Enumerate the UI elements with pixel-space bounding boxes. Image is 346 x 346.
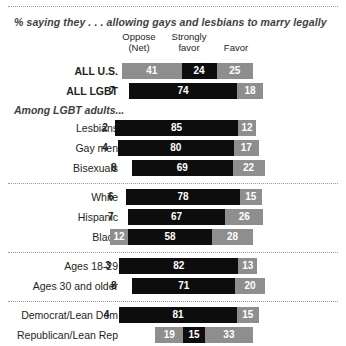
segment-oppose-value: 7 xyxy=(108,209,114,225)
segment-oppose-value: 4 xyxy=(104,307,110,323)
segment-strongly-favor: 71 xyxy=(132,278,235,294)
segment-favor: 22 xyxy=(233,160,265,176)
bar-row: Republican/Lean Rep191533 xyxy=(0,326,346,344)
stacked-bar: 28512 xyxy=(112,120,256,136)
stacked-bar: 125828 xyxy=(110,229,253,245)
row-label: Bisexuals xyxy=(0,159,118,177)
row-label: Ages 30 and older xyxy=(0,277,118,295)
segment-strongly-favor: 24 xyxy=(182,63,217,79)
bar-row: Ages 18-2938213 xyxy=(0,257,346,275)
segment-favor: 33 xyxy=(205,327,253,343)
chart-title: % saying they . . . allowing gays and le… xyxy=(14,16,336,28)
segment-favor: 13 xyxy=(238,258,257,274)
bar-row: Black125828 xyxy=(0,228,346,246)
row-label: Lesbians xyxy=(0,119,118,137)
bar-row: Lesbians28512 xyxy=(0,119,346,137)
bar-row: Hispanic76726 xyxy=(0,208,346,226)
bar-rows: ALL U.S.412425ALL LGBT77418Among LGBT ad… xyxy=(0,62,346,346)
row-label: Hispanic xyxy=(0,208,118,226)
divider-line xyxy=(8,301,338,302)
stacked-bar: 87120 xyxy=(121,278,265,294)
header-oppose: Oppose (Net) xyxy=(116,31,162,53)
stacked-bar: 77418 xyxy=(119,83,263,99)
stacked-bar: 86922 xyxy=(121,160,265,176)
stacked-bar: 412425 xyxy=(122,63,253,79)
segment-favor: 12 xyxy=(238,120,255,136)
header-strongly-line1: Strongly xyxy=(164,31,214,42)
bar-row: Bisexuals86922 xyxy=(0,159,346,177)
segment-oppose: 8 xyxy=(121,278,133,294)
header-oppose-line1: Oppose xyxy=(116,31,162,42)
section-divider xyxy=(0,179,346,188)
stacked-bar: 76726 xyxy=(118,209,263,225)
row-label: Gay men xyxy=(0,139,118,157)
header-oppose-line2: (Net) xyxy=(116,42,162,53)
row-label: Black xyxy=(0,228,118,246)
bar-row: ALL U.S.412425 xyxy=(0,62,346,80)
segment-favor: 15 xyxy=(237,307,259,323)
bar-row: Gay men48017 xyxy=(0,139,346,157)
segment-oppose-value: 4 xyxy=(102,140,108,156)
section-note-lgbt-adults: Among LGBT adults... xyxy=(0,102,346,119)
segment-oppose: 6 xyxy=(118,189,127,205)
stacked-bar: 67815 xyxy=(118,189,262,205)
segment-oppose-value: 8 xyxy=(111,278,117,294)
segment-oppose: 41 xyxy=(122,63,182,79)
segment-favor: 18 xyxy=(237,83,263,99)
segment-strongly-favor: 78 xyxy=(126,189,239,205)
segment-oppose-value: 7 xyxy=(110,83,116,99)
stacked-bar: 48115 xyxy=(113,307,258,323)
row-label: Ages 18-29 xyxy=(0,257,118,275)
segment-favor: 17 xyxy=(234,140,259,156)
segment-oppose-value: 8 xyxy=(111,160,117,176)
row-label: ALL U.S. xyxy=(0,62,118,80)
divider-line xyxy=(8,252,338,253)
segment-oppose: 19 xyxy=(155,327,183,343)
section-note-text: Among LGBT adults... xyxy=(14,102,124,119)
section-divider xyxy=(0,248,346,257)
segment-oppose-value: 2 xyxy=(102,120,108,136)
segment-oppose: 7 xyxy=(119,83,129,99)
segment-strongly-favor: 69 xyxy=(132,160,232,176)
row-label: ALL LGBT xyxy=(0,82,118,100)
stacked-bar: 48017 xyxy=(112,140,259,156)
bar-row: Ages 30 and older87120 xyxy=(0,277,346,295)
header-strongly-favor: Strongly favor xyxy=(164,31,214,53)
segment-oppose-value: 6 xyxy=(108,189,114,205)
segment-strongly-favor: 85 xyxy=(115,120,239,136)
segment-strongly-favor: 74 xyxy=(129,83,237,99)
segment-oppose: 8 xyxy=(121,160,133,176)
segment-oppose-value: 3 xyxy=(105,258,111,274)
section-divider xyxy=(0,297,346,306)
divider-line xyxy=(8,183,338,184)
top-divider xyxy=(8,6,338,7)
segment-strongly-favor: 81 xyxy=(119,307,237,323)
segment-strongly-favor: 67 xyxy=(128,209,225,225)
segment-favor: 26 xyxy=(225,209,263,225)
column-headers: Oppose (Net) Strongly favor Favor xyxy=(0,31,346,55)
segment-favor: 28 xyxy=(212,229,253,245)
segment-strongly-favor: 80 xyxy=(118,140,234,156)
row-label: Republican/Lean Rep xyxy=(0,326,118,344)
segment-strongly-favor: 58 xyxy=(128,229,212,245)
stacked-bar: 38213 xyxy=(115,258,258,274)
header-favor: Favor xyxy=(216,31,256,53)
bar-row: ALL LGBT77418 xyxy=(0,82,346,100)
bar-row: White67815 xyxy=(0,188,346,206)
row-label: Democrat/Lean Dem xyxy=(0,306,118,324)
bar-row: Democrat/Lean Dem48115 xyxy=(0,306,346,324)
row-label: White xyxy=(0,188,118,206)
segment-strongly-favor: 82 xyxy=(119,258,238,274)
stacked-bar: 191533 xyxy=(155,327,252,343)
segment-strongly-favor: 15 xyxy=(183,327,205,343)
segment-oppose: 12 xyxy=(110,229,127,245)
segment-favor: 20 xyxy=(235,278,264,294)
header-strongly-line2: favor xyxy=(164,42,214,53)
segment-favor: 15 xyxy=(240,189,262,205)
header-favor-label: Favor xyxy=(216,42,256,53)
segment-oppose: 7 xyxy=(118,209,128,225)
segment-favor: 25 xyxy=(217,63,253,79)
